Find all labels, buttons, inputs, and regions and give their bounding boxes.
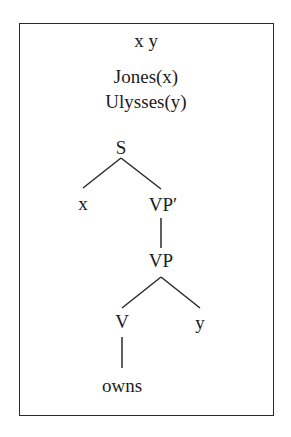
node-v: V xyxy=(115,312,129,331)
node-y: y xyxy=(195,313,205,332)
node-vp-bar: VP′ xyxy=(149,195,177,214)
node-vp: VP xyxy=(149,251,173,270)
node-s: S xyxy=(116,138,127,157)
node-x: x xyxy=(78,194,88,213)
edge-s-vpbar xyxy=(121,158,161,189)
syntax-tree xyxy=(0,0,291,437)
edge-vp-y xyxy=(161,277,200,308)
edge-vp-v xyxy=(122,277,161,308)
node-owns: owns xyxy=(102,376,142,395)
edge-s-x xyxy=(83,158,121,188)
